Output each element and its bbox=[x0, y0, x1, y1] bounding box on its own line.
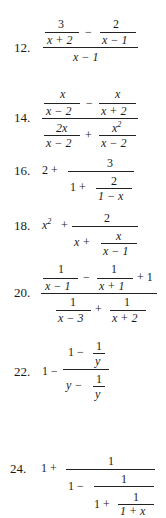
denominator-1: x + 2 bbox=[47, 34, 72, 46]
main-denominator: x − 1 bbox=[73, 51, 98, 63]
level-2-numerator: 1 bbox=[121, 473, 127, 485]
numerator-2: x bbox=[115, 88, 120, 100]
level-3-denominator: 1 + x bbox=[120, 505, 145, 517]
numerator: 3 bbox=[107, 157, 113, 169]
bottom-leading-term: y − bbox=[66, 379, 82, 391]
operator: − bbox=[86, 97, 93, 109]
leading-term: 2 + bbox=[42, 164, 58, 176]
inner-numerator: x bbox=[116, 230, 121, 242]
problem-number: 20. bbox=[14, 286, 30, 299]
denominator-2: x + 1 bbox=[99, 280, 124, 292]
problem-number: 14. bbox=[14, 111, 30, 124]
main-fraction-bar bbox=[42, 118, 138, 119]
inner-numerator: 2 bbox=[111, 175, 117, 187]
denominator-3: x − 3 bbox=[58, 312, 83, 324]
main-fraction-bar bbox=[72, 226, 138, 227]
denominator-1: x − 2 bbox=[46, 105, 71, 117]
tail-term: + 1 bbox=[137, 271, 153, 283]
level-3-numerator: 1 bbox=[133, 491, 139, 503]
inner-denominator: 1 − x bbox=[98, 190, 123, 202]
operator: + bbox=[95, 303, 102, 315]
numerator-1: 1 bbox=[58, 263, 64, 275]
main-fraction-bar bbox=[41, 293, 157, 294]
operator: + bbox=[61, 219, 68, 231]
numerator-3: 1 bbox=[70, 296, 76, 308]
inner-leading-term: 1 + bbox=[70, 181, 86, 193]
denominator-3: x − 2 bbox=[46, 137, 71, 149]
problem-number: 22. bbox=[14, 365, 30, 378]
exponent: 2 bbox=[117, 120, 121, 129]
numerator-2: 1 bbox=[111, 263, 117, 275]
numerator-4: 1 bbox=[124, 296, 130, 308]
top-denominator: y bbox=[95, 355, 100, 367]
inner-denominator: x − 1 bbox=[103, 245, 128, 257]
numerator-1: 3 bbox=[58, 18, 64, 30]
numerator-1: x bbox=[60, 88, 65, 100]
bottom-numerator: 1 bbox=[96, 373, 102, 385]
denominator-4: x + 2 bbox=[112, 312, 137, 324]
level-2-fraction-bar bbox=[94, 486, 154, 487]
problem-number: 16. bbox=[14, 164, 30, 177]
main-fraction-bar bbox=[43, 47, 138, 48]
denominator-2: x − 1 bbox=[102, 34, 127, 46]
denominator-1: x − 1 bbox=[45, 280, 70, 292]
problem-number: 12. bbox=[14, 41, 30, 54]
main-fraction-bar bbox=[66, 469, 155, 470]
denominator-2: x + 2 bbox=[101, 105, 126, 117]
exponent: 2 bbox=[47, 217, 51, 226]
top-leading-term: 1 − bbox=[68, 346, 84, 358]
numerator-2: 2 bbox=[113, 18, 119, 30]
leading-term: 1 + bbox=[41, 462, 57, 474]
problem-number: 18. bbox=[14, 219, 30, 232]
level-3-leading-term: 1 + bbox=[94, 498, 110, 510]
inner-leading-term: x + bbox=[74, 236, 90, 248]
operator: − bbox=[83, 271, 90, 283]
operator: − bbox=[85, 26, 92, 38]
leading-term: 1 − bbox=[42, 365, 58, 377]
numerator: 1 bbox=[108, 455, 114, 467]
operator: + bbox=[85, 129, 92, 141]
numerator-4: x2 bbox=[112, 122, 121, 134]
main-fraction-bar bbox=[68, 171, 134, 172]
top-numerator: 1 bbox=[96, 340, 102, 352]
numerator: 2 bbox=[104, 212, 110, 224]
main-fraction-bar bbox=[63, 369, 109, 370]
denominator-4: x − 2 bbox=[101, 137, 126, 149]
bottom-denominator: y bbox=[95, 388, 100, 400]
problem-number: 24. bbox=[10, 462, 26, 475]
leading-term: x2 bbox=[42, 219, 51, 231]
level-2-leading-term: 1 − bbox=[68, 480, 84, 492]
numerator-3: 2x bbox=[56, 122, 67, 134]
